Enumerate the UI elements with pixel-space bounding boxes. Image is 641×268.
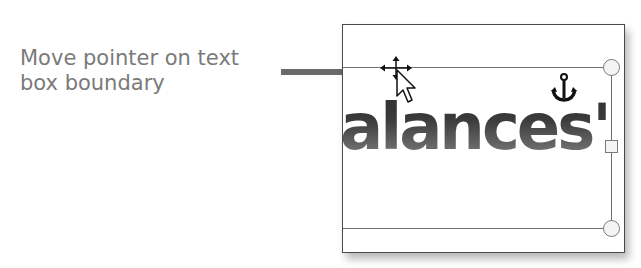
anchor-icon [551, 73, 577, 103]
callout-label: Move pointer on text box boundary [20, 46, 280, 96]
callout-line-1: Move pointer on text [20, 46, 280, 71]
resize-handle-top-right[interactable] [603, 59, 620, 76]
text-box-bottom-boundary[interactable] [343, 228, 612, 229]
resize-handle-middle-right[interactable] [605, 140, 618, 153]
callout-line-2: box boundary [20, 71, 280, 96]
resize-handle-bottom-right[interactable] [603, 220, 620, 237]
move-pointer-cursor-icon [380, 56, 420, 116]
document-page: alances' [342, 24, 625, 253]
